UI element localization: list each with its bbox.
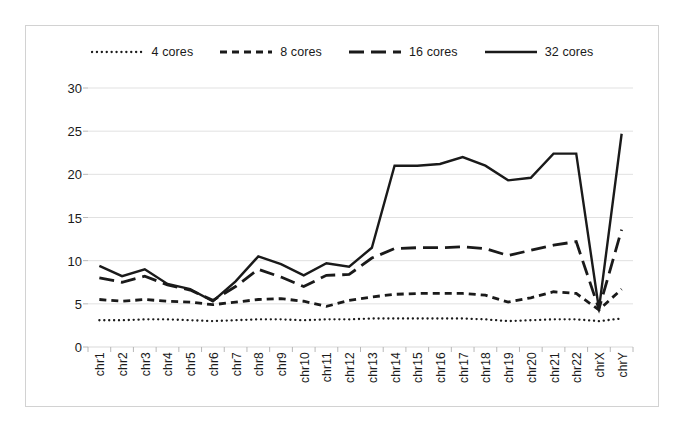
y-tick-label: 20: [48, 167, 82, 182]
y-tick-label: 25: [48, 124, 82, 139]
series-line-4-cores: [99, 319, 621, 322]
x-tick-label-chr16: chr16: [434, 352, 448, 383]
y-axis: 051015202530: [44, 88, 82, 347]
solid-line-icon: [484, 47, 538, 57]
series-line-16-cores: [99, 230, 621, 309]
x-tick-label-chr6: chr6: [207, 352, 221, 376]
legend-label: 32 cores: [545, 45, 594, 59]
legend-item-16-cores[interactable]: 16 cores: [348, 45, 458, 59]
x-tick-label-chr21: chr21: [548, 352, 562, 383]
dotted-line-icon: [91, 47, 145, 57]
plot-lines: [88, 88, 633, 347]
legend-item-4-cores[interactable]: 4 cores: [91, 45, 194, 59]
x-tick-label-chrX: chrX: [593, 352, 607, 377]
x-tick-label-chr12: chr12: [343, 352, 357, 383]
x-tick-label-chrY: chrY: [616, 352, 630, 377]
x-tick-label-chr5: chr5: [184, 352, 198, 376]
x-tick-label-chr14: chr14: [389, 352, 403, 383]
x-tick-label-chr20: chr20: [525, 352, 539, 383]
y-tick-label: 15: [48, 210, 82, 225]
dashed-line-icon: [219, 47, 273, 57]
x-tick-label-chr17: chr17: [457, 352, 471, 383]
legend-label: 4 cores: [152, 45, 194, 59]
chart-root: 4 cores8 cores16 cores32 cores 051015202…: [0, 0, 685, 436]
x-tick-label-chr4: chr4: [161, 352, 175, 376]
x-tick-label-chr7: chr7: [230, 352, 244, 376]
x-tick-label-chr18: chr18: [479, 352, 493, 383]
series-line-8-cores: [99, 289, 621, 310]
x-tick-label-chr13: chr13: [366, 352, 380, 383]
x-axis: chr1chr2chr3chr4chr5chr6chr7chr8chr9chr1…: [88, 352, 633, 410]
x-tick-label-chr1: chr1: [93, 352, 107, 376]
legend-item-32-cores[interactable]: 32 cores: [484, 45, 594, 59]
x-tick-label-chr10: chr10: [298, 352, 312, 383]
x-tick-label-chr22: chr22: [570, 352, 584, 383]
plot-area: [88, 88, 633, 347]
y-tick-label: 10: [48, 253, 82, 268]
legend-item-8-cores[interactable]: 8 cores: [219, 45, 322, 59]
chart-legend: 4 cores8 cores16 cores32 cores: [25, 45, 659, 59]
y-tick-label: 30: [48, 81, 82, 96]
x-tick-label-chr11: chr11: [320, 352, 334, 382]
y-tick-label: 5: [48, 296, 82, 311]
series-line-32-cores: [99, 134, 621, 309]
x-tick-label-chr19: chr19: [502, 352, 516, 383]
legend-label: 16 cores: [409, 45, 458, 59]
x-tick-label-chr2: chr2: [116, 352, 130, 376]
x-tick-label-chr3: chr3: [139, 352, 153, 376]
x-tick-label-chr8: chr8: [252, 352, 266, 376]
legend-label: 8 cores: [280, 45, 322, 59]
y-tick-label: 0: [48, 340, 82, 355]
long-dash-line-icon: [348, 47, 402, 57]
x-tick-label-chr9: chr9: [275, 352, 289, 376]
x-tick-label-chr15: chr15: [411, 352, 425, 383]
